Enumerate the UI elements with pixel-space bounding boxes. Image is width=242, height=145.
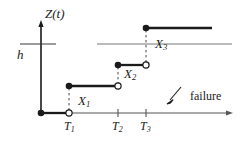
x-tick-label-t2: T2 — [112, 120, 123, 134]
step-function-figure: Z(t) h X1 X2 X3 T1 T2 T3 failure — [0, 0, 242, 145]
jump-label-x2-base: X — [124, 66, 132, 81]
jump-label-x3-subscript: 3 — [163, 42, 167, 52]
jump-label-x2-subscript: 2 — [132, 72, 136, 82]
x-tick-label-t1: T1 — [64, 120, 75, 134]
threshold-label: h — [17, 48, 24, 61]
x-tick-label-t2-subscript: 2 — [119, 125, 123, 134]
x-tick-label-t3: T3 — [140, 120, 151, 134]
x-tick-label-t1-subscript: 1 — [71, 125, 75, 134]
filled-dot-step3-left — [143, 25, 150, 32]
failure-arrow-shaft — [170, 87, 181, 100]
filled-dot-step2-left — [115, 62, 122, 69]
jump-label-x3: X3 — [155, 37, 167, 51]
jump-label-x3-base: X — [155, 36, 163, 51]
x-tick-label-t3-base: T — [140, 119, 147, 133]
jump-label-x2: X2 — [124, 67, 136, 81]
open-dot-step1-right — [115, 83, 121, 89]
jump-label-x1-subscript: 1 — [86, 99, 90, 109]
y-axis-label: Z(t) — [45, 7, 65, 20]
failure-arrow-group — [167, 87, 181, 104]
x-tick-label-t3-subscript: 3 — [147, 125, 151, 134]
open-dot-t1 — [66, 110, 72, 116]
y-axis-arrowhead — [38, 20, 43, 27]
jump-label-x1: X1 — [78, 94, 90, 108]
failure-annotation-label: failure — [190, 90, 221, 102]
filled-dot-step1-left — [66, 83, 73, 90]
jump-label-x1-base: X — [78, 93, 86, 108]
open-dot-step2-right — [143, 62, 149, 68]
x-tick-label-t2-base: T — [112, 119, 119, 133]
x-tick-label-t1-base: T — [64, 119, 71, 133]
x-axis-arrowhead — [226, 110, 233, 115]
failure-arrowhead — [167, 100, 173, 104]
filled-dot-origin — [38, 110, 45, 117]
